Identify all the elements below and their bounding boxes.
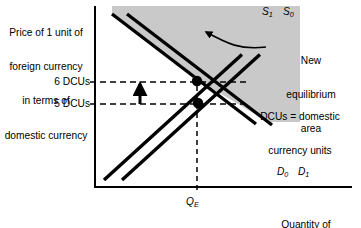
- supply-curve-original-subscript: 0: [290, 10, 294, 19]
- supply-curve-original-label: S0: [283, 6, 294, 17]
- supply-curve-new-subscript: 1: [269, 10, 273, 19]
- equilibrium-quantity-subscript: E: [194, 200, 199, 209]
- annotation-line-1: New: [268, 55, 354, 66]
- equilibrium-point-original: [193, 98, 203, 108]
- y-axis-title-line-4: domestic currency: [0, 130, 92, 141]
- equilibrium-point-new: [192, 76, 202, 86]
- y-axis-title-line-1: Price of 1 unit of: [0, 27, 92, 38]
- equilibrium-quantity-label: QE: [186, 196, 199, 207]
- dcu-legend-note: DCUs = domestic currency units: [240, 88, 360, 179]
- x-axis-title-line-1: Quantity of: [252, 219, 360, 228]
- equilibrium-quantity-letter: Q: [186, 196, 194, 207]
- foreign-exchange-diagram: Price of 1 unit of foreign currency in t…: [0, 0, 361, 228]
- x-axis-title: Quantity of foreign currency: [252, 196, 360, 228]
- supply-curve-new-letter: S: [262, 6, 269, 17]
- supply-curve-original-letter: S: [283, 6, 290, 17]
- y-axis-title-line-2: foreign currency: [0, 61, 92, 72]
- supply-curve-new-label: S1: [262, 6, 273, 17]
- price-tick-label-high: 6 DCUs: [36, 76, 90, 87]
- price-tick-label-low: 5 DCUs: [36, 98, 90, 109]
- legend-line-2: currency units: [240, 145, 360, 156]
- legend-line-1: DCUs = domestic: [240, 111, 360, 122]
